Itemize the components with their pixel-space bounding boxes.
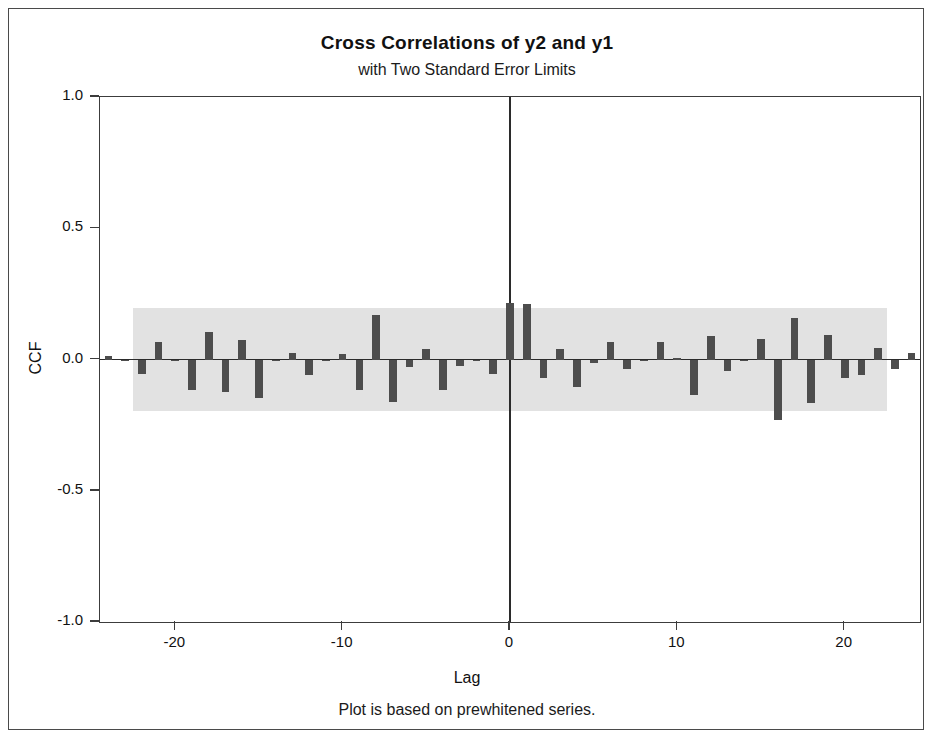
bar-lag--11 <box>322 360 330 362</box>
bar-lag--7 <box>389 360 397 402</box>
y-tick-label-2: 0.0 <box>13 349 83 366</box>
bar-lag-18 <box>807 360 815 403</box>
bar-lag--6 <box>406 360 414 368</box>
bar-lag-14 <box>740 360 748 362</box>
y-tick-label-3: -0.5 <box>13 480 83 497</box>
cross-correlation-chart: Cross Correlations of y2 and y1 with Two… <box>9 9 925 731</box>
x-tick-label-1: -10 <box>312 633 372 650</box>
bar-lag-5 <box>590 360 598 364</box>
x-tick-label-0: -20 <box>144 633 204 650</box>
bar-lag-22 <box>874 348 882 360</box>
bar-lag--22 <box>138 360 146 374</box>
bar-lag-0 <box>506 303 514 359</box>
bar-lag-7 <box>623 360 631 369</box>
bar-lag-15 <box>757 339 765 360</box>
bar-lag-10 <box>673 358 681 360</box>
bar-lag-23 <box>891 360 899 369</box>
bar-lag-1 <box>523 304 531 359</box>
chart-footnote: Plot is based on prewhitened series. <box>9 701 925 719</box>
bar-lag--4 <box>439 360 447 390</box>
bar-lag-13 <box>724 360 732 372</box>
x-tick-mark-3 <box>676 621 678 630</box>
x-axis-title: Lag <box>9 669 925 687</box>
bar-lag-4 <box>573 360 581 388</box>
bar-lag--21 <box>155 342 163 359</box>
y-tick-label-1: 0.5 <box>13 217 83 234</box>
bar-lag-3 <box>556 349 564 360</box>
bar-lag-24 <box>908 353 916 360</box>
bar-lag--18 <box>205 332 213 360</box>
x-tick-mark-1 <box>341 621 343 630</box>
bar-lag--1 <box>489 360 497 374</box>
bar-lag-12 <box>707 336 715 360</box>
y-tick-mark-0 <box>90 95 99 97</box>
bar-lag--10 <box>339 354 347 359</box>
bar-lag-2 <box>540 360 548 378</box>
bar-lag-17 <box>791 318 799 360</box>
y-tick-mark-2 <box>90 358 99 360</box>
x-tick-mark-2 <box>508 621 510 630</box>
bar-lag--12 <box>305 360 313 376</box>
y-tick-label-4: -1.0 <box>13 611 83 628</box>
bar-lag-21 <box>858 360 866 376</box>
y-tick-mark-1 <box>90 227 99 229</box>
x-tick-mark-0 <box>174 621 176 630</box>
x-tick-label-2: 0 <box>479 633 539 650</box>
y-tick-mark-4 <box>90 620 99 622</box>
bar-lag--16 <box>238 340 246 360</box>
y-tick-label-0: 1.0 <box>13 86 83 103</box>
bar-lag-16 <box>774 360 782 420</box>
bar-lag--19 <box>188 360 196 390</box>
y-tick-mark-3 <box>90 489 99 491</box>
bar-lag--15 <box>255 360 263 398</box>
bar-lag--5 <box>422 349 430 360</box>
bar-lag--23 <box>121 360 129 362</box>
plot-area <box>99 96 921 623</box>
bar-lag-9 <box>657 342 665 359</box>
bar-lag--9 <box>356 360 364 390</box>
chart-subtitle: with Two Standard Error Limits <box>9 61 925 79</box>
bar-lag-6 <box>607 342 615 359</box>
bar-lag--8 <box>372 315 380 360</box>
bar-lag-11 <box>690 360 698 395</box>
x-tick-mark-4 <box>843 621 845 630</box>
bar-lag-19 <box>824 335 832 360</box>
bar-lag--17 <box>222 360 230 393</box>
bar-lag-8 <box>640 360 648 362</box>
lag-zero-vertical-line <box>509 97 511 622</box>
bar-lag--14 <box>272 360 280 362</box>
bar-lag--2 <box>473 360 481 362</box>
bar-lag--3 <box>456 360 464 367</box>
x-tick-label-3: 10 <box>646 633 706 650</box>
figure-frame: Cross Correlations of y2 and y1 with Two… <box>8 8 924 730</box>
chart-title: Cross Correlations of y2 and y1 <box>9 32 925 54</box>
bar-lag--24 <box>105 356 113 360</box>
bar-lag--13 <box>289 353 297 360</box>
x-tick-label-4: 20 <box>814 633 874 650</box>
bar-lag--20 <box>171 360 179 362</box>
bar-lag-20 <box>841 360 849 378</box>
